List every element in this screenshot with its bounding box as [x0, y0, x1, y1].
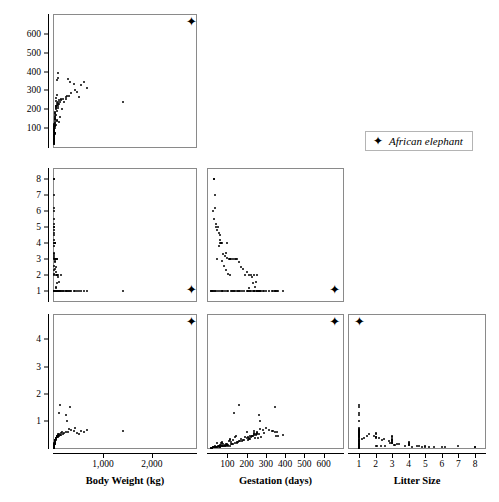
- y-tick-mark: [44, 194, 48, 195]
- data-point: [213, 218, 215, 220]
- data-point: [268, 290, 270, 292]
- data-point: [59, 116, 61, 118]
- data-point: [254, 286, 256, 288]
- data-point: [249, 438, 251, 440]
- data-point: [80, 84, 82, 86]
- data-point: [122, 101, 124, 103]
- data-point: [358, 412, 360, 414]
- data-point: [86, 87, 88, 89]
- y-tick-mark: [44, 71, 48, 72]
- data-point: [58, 121, 60, 123]
- data-point: [239, 440, 241, 442]
- data-point: [62, 433, 64, 435]
- data-point: [358, 420, 360, 422]
- legend-label: African elephant: [389, 135, 463, 147]
- data-point: [73, 290, 75, 292]
- highlighted-point-african-elephant: ✦: [186, 17, 197, 27]
- data-point: [70, 92, 72, 94]
- data-point: [253, 274, 255, 276]
- data-point: [255, 290, 257, 292]
- y-tick-label: 4: [0, 238, 41, 248]
- data-point: [80, 430, 82, 432]
- y-tick-label: 600: [0, 29, 41, 39]
- y-tick-mark: [44, 128, 48, 129]
- data-point: [216, 229, 218, 231]
- data-point: [226, 242, 228, 244]
- data-point: [358, 447, 360, 449]
- data-point: [57, 290, 59, 292]
- data-point: [274, 290, 276, 292]
- data-point: [408, 443, 410, 445]
- data-point: [258, 414, 260, 416]
- data-point: [247, 439, 249, 441]
- y-tick-mark: [44, 33, 48, 34]
- data-point: [62, 98, 64, 100]
- y-tick-label: 4: [0, 334, 41, 344]
- data-point: [219, 239, 221, 241]
- x-tick-mark: [285, 454, 286, 458]
- x-axis-line: [348, 453, 486, 454]
- x-tick-mark: [247, 454, 248, 458]
- y-tick-label: 1: [0, 416, 41, 426]
- x-tick-label: 100: [220, 459, 234, 469]
- data-point: [58, 281, 60, 283]
- data-point: [57, 72, 59, 74]
- data-point: [255, 281, 257, 283]
- data-point: [218, 245, 220, 247]
- data-point: [213, 178, 215, 180]
- x-tick-mark: [442, 454, 443, 458]
- data-point: [433, 446, 435, 448]
- data-point: [56, 79, 58, 81]
- data-point: [78, 433, 80, 435]
- y-tick-mark: [44, 210, 48, 211]
- data-point: [57, 436, 59, 438]
- data-point: [242, 268, 244, 270]
- y-tick-mark: [44, 339, 48, 340]
- y-tick-label: 7: [0, 190, 41, 200]
- x-tick-label: 6: [440, 459, 445, 469]
- data-point: [282, 290, 284, 292]
- data-point: [230, 290, 232, 292]
- data-point: [246, 271, 248, 273]
- data-point: [221, 260, 223, 262]
- panel-littersize-vs-gestation: ✦: [207, 168, 344, 302]
- plot-area: ✦: [54, 15, 196, 147]
- data-point: [257, 437, 259, 439]
- data-point: [67, 78, 69, 80]
- highlighted-point-african-elephant: ✦: [186, 317, 197, 327]
- y-tick-label: 1: [0, 286, 41, 296]
- y-tick-mark: [44, 243, 48, 244]
- data-point: [53, 265, 55, 267]
- data-point: [76, 290, 78, 292]
- data-point: [56, 282, 58, 284]
- y-tick-label: 3: [0, 254, 41, 264]
- plot-area: ✦: [349, 315, 485, 448]
- x-tick-mark: [324, 454, 325, 458]
- x-tick-mark: [475, 454, 476, 458]
- data-point: [248, 274, 250, 276]
- data-point: [441, 446, 443, 448]
- data-point: [241, 440, 243, 442]
- data-point: [368, 433, 370, 435]
- data-point: [375, 432, 377, 434]
- y-tick-label: 200: [0, 104, 41, 114]
- x-tick-label: 4: [406, 459, 411, 469]
- data-point: [253, 290, 255, 292]
- data-point: [53, 239, 55, 241]
- data-point: [55, 271, 57, 273]
- x-tick-label: 1,000: [92, 459, 113, 469]
- data-point: [363, 437, 365, 439]
- data-point: [238, 404, 240, 406]
- panel-gestation-vs-bodyweight: ✦: [53, 14, 197, 148]
- data-point: [272, 430, 274, 432]
- data-point: [53, 143, 55, 145]
- scatterplot-matrix: ✦100200300400500600Gestation (days)✦1234…: [0, 0, 499, 502]
- data-point: [243, 439, 245, 441]
- data-point: [212, 210, 214, 212]
- data-point: [225, 252, 227, 254]
- data-point: [398, 443, 400, 445]
- data-point: [54, 242, 56, 244]
- data-point: [277, 435, 279, 437]
- panel-brainweight-vs-gestation: ✦: [207, 314, 344, 449]
- data-point: [53, 207, 55, 209]
